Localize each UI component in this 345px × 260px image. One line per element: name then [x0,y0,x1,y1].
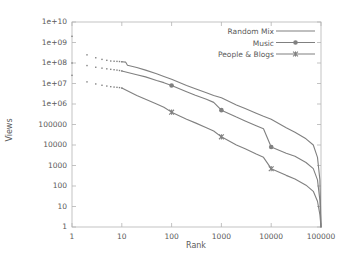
series-point-dot [101,85,102,86]
series-point-dot [71,75,72,76]
series-marker-x [219,134,224,139]
series-point-dot [86,81,87,82]
series-marker-x [269,166,274,171]
series-marker-x [169,110,174,115]
series-point-dot [86,65,87,66]
series-point-dot [101,59,102,60]
series-marker-circle [269,145,274,150]
series-point-dot [71,36,72,37]
x-tick-label: 10 [117,233,127,241]
x-axis-title: Rank [186,242,206,250]
series-point-dot [113,61,114,62]
legend-label-2: Music [253,38,274,47]
chart-container: 1101001000100001000001e+061e+071e+081e+0… [0,0,345,260]
x-tick-label: 1 [70,233,75,241]
series-point-dot [116,87,117,88]
series-point-dot [110,69,111,70]
series-point-dot [86,54,87,55]
x-tick-label: 10000 [259,233,283,241]
series-point-dot [95,67,96,68]
series-point-dot [119,87,120,88]
y-tick-label: 1e+07 [42,80,67,88]
y-tick-label: 100000 [38,121,67,129]
legend-sample-2 [276,40,315,45]
y-tick-label: 100 [53,182,67,190]
y-tick-label: 10 [57,203,67,211]
x-tick-label: 100000 [307,233,336,241]
y-tick-label: 1e+08 [42,59,67,67]
plot-border [72,22,321,227]
y-tick-label: 1e+06 [42,100,67,108]
legend-sample-3 [276,51,315,56]
y-tick-label: 1e+09 [42,39,67,47]
y-tick-label: 1000 [48,162,67,170]
series-point-dot [119,61,120,62]
series-point-dot [116,61,117,62]
series-point-dot [106,85,107,86]
series-point-dot [71,62,72,63]
series-point-dot [101,67,102,68]
x-tick-label: 1000 [212,233,231,241]
series-marker-circle [169,83,174,88]
y-tick-label: 10000 [43,141,67,149]
y-tick-label: 1e+10 [42,18,67,26]
legend-label-1: Random Mix [228,27,274,36]
series-point-dot [119,70,120,71]
series-point-dot [113,69,114,70]
series-point-dot [116,69,117,70]
series-point-dot [95,83,96,84]
legend-label-3: People & Blogs [218,50,274,59]
y-tick-label: 1 [62,223,67,231]
series-line-1 [122,62,321,227]
series-point-dot [113,86,114,87]
series-point-dot [106,60,107,61]
x-tick-label: 100 [164,233,178,241]
series-line-2 [122,71,321,227]
series-point-dot [95,57,96,58]
series-point-dot [110,60,111,61]
series-point-dot [106,68,107,69]
series-point-dot [110,86,111,87]
series-marker-circle [219,108,224,113]
y-axis-title: Views [6,118,14,141]
